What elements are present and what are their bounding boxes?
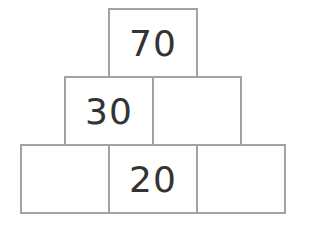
number-pyramid: 70 30 20 <box>0 0 310 234</box>
pyramid-cell-bottom-left[interactable] <box>20 144 110 214</box>
pyramid-cell-top[interactable]: 70 <box>108 8 198 78</box>
pyramid-cell-middle-left[interactable]: 30 <box>64 76 154 146</box>
pyramid-cell-middle-right[interactable] <box>152 76 242 146</box>
pyramid-cell-bottom-right[interactable] <box>196 144 286 214</box>
pyramid-cell-bottom-middle[interactable]: 20 <box>108 144 198 214</box>
cell-value: 70 <box>129 23 177 64</box>
cell-value: 30 <box>85 91 133 132</box>
cell-value: 20 <box>129 159 177 200</box>
